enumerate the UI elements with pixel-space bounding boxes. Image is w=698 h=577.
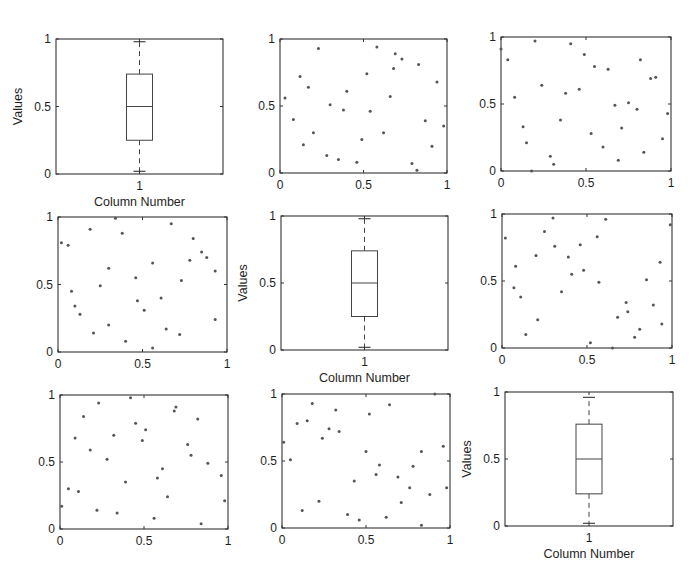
data-point <box>375 46 378 49</box>
y-axis-label: Values <box>11 88 25 125</box>
data-point <box>583 53 586 56</box>
data-point <box>430 145 433 148</box>
x-tick-label: 0.5 <box>579 353 596 367</box>
data-point <box>642 151 645 154</box>
data-point <box>358 518 361 521</box>
data-point <box>299 75 302 78</box>
y-tick-label: 1 <box>493 385 500 399</box>
data-point <box>570 273 573 276</box>
y-tick-label: 0.5 <box>483 452 500 466</box>
data-point <box>513 96 516 99</box>
data-point <box>369 110 372 113</box>
data-point <box>106 458 109 461</box>
x-tick-label: 1 <box>224 357 231 371</box>
data-point <box>114 217 117 220</box>
y-tick-label: 0 <box>44 167 51 181</box>
figure-3x3-grid: 00.511Column NumberValues00.5100.5100.51… <box>0 0 698 577</box>
data-point <box>334 409 337 412</box>
data-point <box>328 427 331 430</box>
data-point <box>89 228 92 231</box>
data-point <box>329 103 332 106</box>
data-point <box>317 47 320 50</box>
data-point <box>435 80 438 83</box>
y-tick-label: 0.5 <box>38 455 55 469</box>
y-tick-label: 0 <box>489 164 496 178</box>
data-point <box>190 454 193 457</box>
data-point <box>593 65 596 68</box>
y-tick-label: 0 <box>270 521 277 535</box>
y-tick-label: 1 <box>48 388 55 402</box>
data-point <box>180 279 183 282</box>
x-tick-label: 1 <box>444 178 451 192</box>
x-tick-label: 0.5 <box>355 178 372 192</box>
data-point <box>365 450 368 453</box>
data-point <box>415 169 418 172</box>
y-tick-label: 1 <box>269 209 276 223</box>
data-point <box>166 495 169 498</box>
data-point <box>625 301 628 304</box>
x-tick-label: 0.5 <box>136 534 153 548</box>
data-point <box>296 422 299 425</box>
data-point <box>536 318 539 321</box>
y-tick-label: 0 <box>46 345 53 359</box>
data-point <box>192 237 195 240</box>
panel-2-scatter: 00.5100.51 <box>258 32 450 192</box>
x-axis-label: Column Number <box>94 195 185 209</box>
x-tick-label: 1 <box>136 179 143 193</box>
data-point <box>420 524 423 527</box>
data-point <box>424 119 427 122</box>
data-point <box>338 430 341 433</box>
y-tick-label: 0.5 <box>34 100 51 114</box>
data-point <box>530 170 533 173</box>
data-point <box>659 261 662 264</box>
data-point <box>604 218 607 221</box>
data-point <box>400 58 403 61</box>
panel-3-scatter: 00.5100.51 <box>479 30 674 190</box>
y-tick-label: 1 <box>490 207 497 221</box>
data-point <box>552 217 555 220</box>
data-point <box>620 127 623 130</box>
y-tick-label: 0.5 <box>258 99 275 113</box>
scatter-points <box>60 217 217 350</box>
data-point <box>141 439 144 442</box>
x-tick-label: 1 <box>447 533 454 547</box>
data-point <box>559 119 562 122</box>
data-point <box>389 95 392 98</box>
data-point <box>392 67 395 70</box>
panel-1-box: 00.511Column NumberValues <box>11 32 223 209</box>
data-point <box>654 76 657 79</box>
y-tick-label: 1 <box>46 210 53 224</box>
data-point <box>74 436 77 439</box>
data-point <box>124 340 127 343</box>
y-tick-label: 0.5 <box>480 274 497 288</box>
y-tick-label: 0.5 <box>260 454 277 468</box>
y-tick-label: 0 <box>490 341 497 355</box>
axes-frame <box>280 39 447 173</box>
data-point <box>99 284 102 287</box>
data-point <box>136 299 139 302</box>
data-point <box>188 259 191 262</box>
data-point <box>417 63 420 66</box>
boxplot <box>127 42 153 172</box>
data-point <box>302 143 305 146</box>
y-axis-label: Values <box>236 264 250 301</box>
data-point <box>636 108 639 111</box>
data-point <box>569 42 572 45</box>
data-point <box>365 72 368 75</box>
x-tick-label: 0 <box>57 534 64 548</box>
panel-6-scatter: 00.5100.51 <box>480 207 675 367</box>
boxplot <box>352 219 378 348</box>
data-point <box>514 265 517 268</box>
data-point <box>669 223 672 226</box>
data-point <box>540 84 543 87</box>
data-point <box>151 261 154 264</box>
x-tick-label: 0 <box>279 533 286 547</box>
data-point <box>382 131 385 134</box>
data-point <box>602 145 605 148</box>
panel-5-box: 00.511Column NumberValues <box>236 209 448 385</box>
y-tick-label: 0.5 <box>36 278 53 292</box>
data-point <box>360 138 363 141</box>
data-point <box>284 96 287 99</box>
data-point <box>385 516 388 519</box>
x-tick-label: 1 <box>361 355 368 369</box>
